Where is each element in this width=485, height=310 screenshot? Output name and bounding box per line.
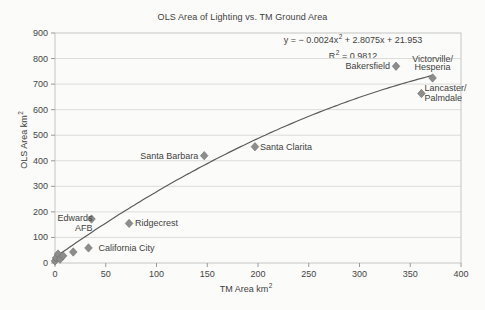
point-label: California City <box>98 243 155 253</box>
point-label: Santa Clarita <box>260 142 312 152</box>
point-label: Ridgecrest <box>135 218 179 228</box>
plot-area: 0100200300400500600700800900050100150200… <box>0 0 485 310</box>
x-tick-label: 400 <box>453 269 468 279</box>
data-point <box>251 143 259 151</box>
data-point <box>125 219 133 227</box>
y-tick-label: 900 <box>33 28 48 38</box>
data-point <box>200 151 208 159</box>
x-tick-label: 150 <box>200 269 215 279</box>
x-tick-label: 100 <box>149 269 164 279</box>
point-label: Bakersfield <box>346 61 391 71</box>
data-point <box>69 248 77 256</box>
x-tick-label: 250 <box>301 269 316 279</box>
x-tick-label: 300 <box>352 269 367 279</box>
y-tick-label: 200 <box>33 207 48 217</box>
data-point <box>429 74 437 82</box>
y-tick-label: 700 <box>33 79 48 89</box>
y-tick-label: 800 <box>33 54 48 64</box>
y-tick-label: 300 <box>33 181 48 191</box>
y-tick-label: 0 <box>43 258 48 268</box>
y-tick-label: 400 <box>33 156 48 166</box>
x-tick-label: 50 <box>101 269 111 279</box>
data-point <box>85 244 93 252</box>
data-point <box>392 62 400 70</box>
x-tick-label: 350 <box>403 269 418 279</box>
chart-figure: OLS Area of Lighting vs. TM Ground Area … <box>0 0 485 310</box>
y-tick-label: 100 <box>33 232 48 242</box>
point-label: Santa Barbara <box>140 151 198 161</box>
x-tick-label: 200 <box>250 269 265 279</box>
y-tick-label: 600 <box>33 105 48 115</box>
point-label: Victorville/Hesperia <box>412 54 453 72</box>
x-tick-label: 0 <box>52 269 57 279</box>
point-label: EdwardsAFB <box>58 213 94 233</box>
point-label: Lancaster/Palmdale <box>424 83 467 103</box>
trendline-curve <box>55 75 433 257</box>
y-tick-label: 500 <box>33 130 48 140</box>
